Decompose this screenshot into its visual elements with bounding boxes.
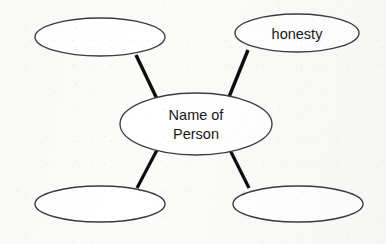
node-top-left[interactable] — [35, 18, 165, 56]
node-bottom-right-ellipse[interactable] — [233, 186, 363, 222]
node-top-left-ellipse[interactable] — [35, 18, 165, 56]
node-bottom-right[interactable] — [233, 186, 363, 222]
connector-center-to-top-right — [229, 50, 248, 97]
node-top-right-label: honesty — [272, 26, 324, 42]
diagram-canvas: honesty Name of Person — [0, 0, 386, 244]
node-center[interactable]: Name of Person — [120, 93, 272, 155]
node-center-ellipse[interactable] — [120, 93, 272, 155]
concept-map-diagram: honesty Name of Person — [0, 0, 386, 244]
connector-center-to-bottom-left — [137, 150, 157, 188]
connector-center-to-top-left — [136, 55, 157, 99]
node-bottom-left[interactable] — [35, 186, 165, 222]
node-bottom-left-ellipse[interactable] — [35, 186, 165, 222]
connector-center-to-bottom-right — [230, 150, 249, 188]
node-center-label-line1: Name of — [169, 107, 225, 123]
node-center-label-line2: Person — [173, 126, 219, 142]
node-top-right[interactable]: honesty — [235, 14, 359, 52]
